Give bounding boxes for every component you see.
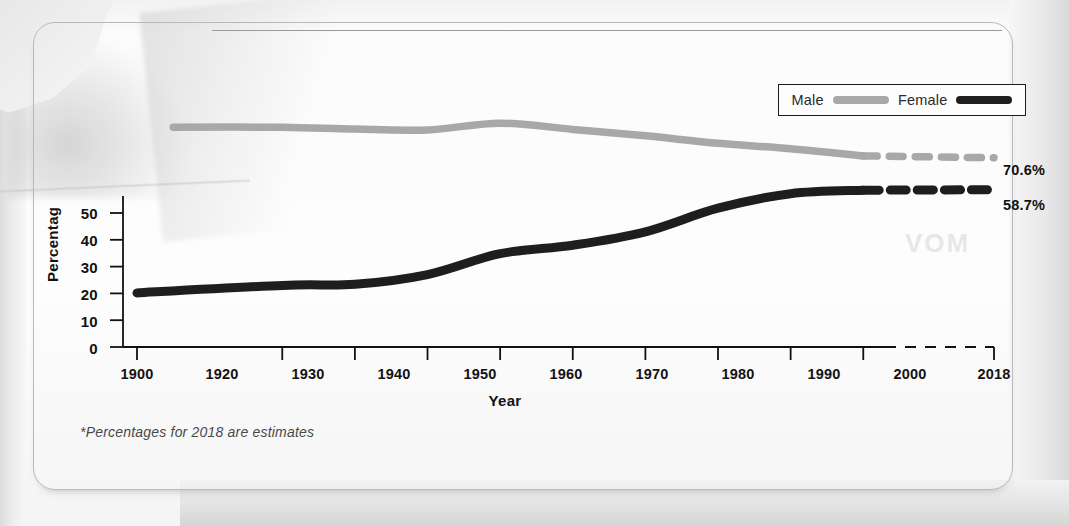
legend-item-male[interactable]: Male <box>792 92 889 108</box>
legend-label-female: Female <box>898 92 948 108</box>
legend-item-female[interactable]: Female <box>898 92 1013 108</box>
legend-label-male: Male <box>792 92 824 108</box>
male-end-value-label: 70.6% <box>1003 162 1045 178</box>
x-tick-label: 1920 <box>192 366 252 382</box>
x-tick-label: 1980 <box>708 366 768 382</box>
paper-background: VOM Percentag 50 40 30 20 10 0 1900 1920… <box>0 0 1069 526</box>
x-tick-label: 1900 <box>107 366 167 382</box>
x-tick-label: 1940 <box>364 366 424 382</box>
legend-swatch-male <box>833 96 889 104</box>
y-tick-label: 0 <box>72 340 98 357</box>
x-tick-label: 2000 <box>880 366 940 382</box>
line-chart <box>0 0 1069 526</box>
y-tick-label: 50 <box>72 205 98 222</box>
x-tick-label: 1950 <box>450 366 510 382</box>
y-axis-title: Percentag <box>44 207 61 282</box>
female-end-value-label: 58.7% <box>1003 197 1045 213</box>
x-tick-label: 1960 <box>536 366 596 382</box>
x-tick-label: 1970 <box>622 366 682 382</box>
chart-footnote: *Percentages for 2018 are estimates <box>80 424 314 440</box>
x-tick-label: 1990 <box>794 366 854 382</box>
x-tick-label: 2018 <box>964 366 1024 382</box>
y-axis-title-clip: Percentag <box>44 178 68 288</box>
y-tick-label: 40 <box>72 232 98 249</box>
x-axis-title: Year <box>0 392 1010 409</box>
legend-swatch-female <box>956 96 1012 104</box>
y-tick-label: 10 <box>72 313 98 330</box>
y-tick-label: 30 <box>72 259 98 276</box>
chart-legend: Male Female <box>778 84 1026 116</box>
x-tick-label: 1930 <box>278 366 338 382</box>
y-tick-label: 20 <box>72 286 98 303</box>
